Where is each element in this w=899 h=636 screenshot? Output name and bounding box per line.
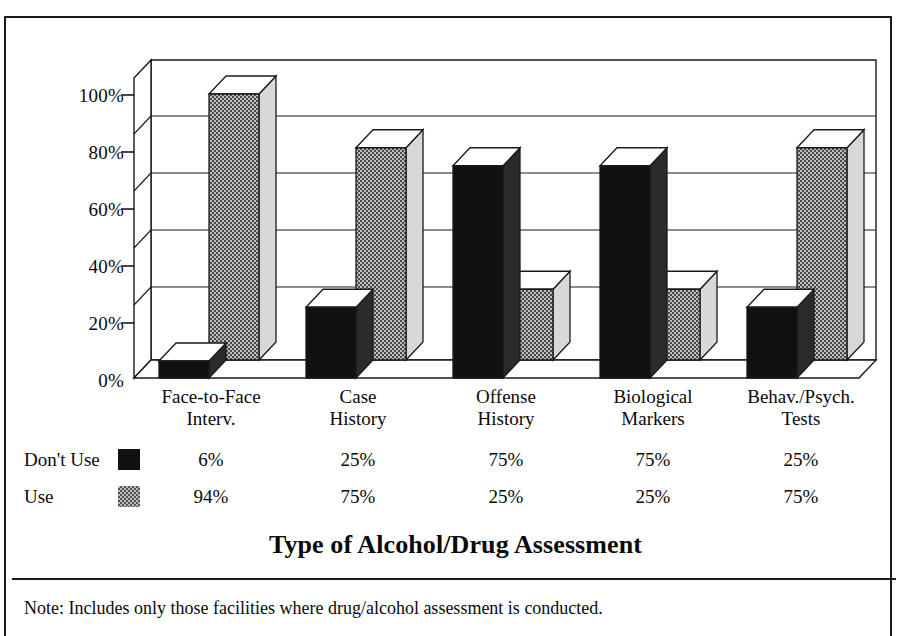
legend-value-dont-use-1: 25% (283, 448, 433, 472)
chart-title: Type of Alcohol/Drug Assessment (6, 530, 899, 560)
chart-plot-area: 100% 80% 60% 40% 20% 0% (6, 18, 899, 418)
legend-value-dont-use-4: 25% (726, 448, 876, 472)
bar-offense-history-dont-use (453, 148, 520, 378)
chart-legend-table: Don't Use 6% 25% 75% 75% 25% Use 94% 75%… (6, 446, 899, 518)
legend-value-dont-use-0: 6% (136, 448, 286, 472)
legend-row-use: Use 94% 75% 25% 25% 75% (6, 483, 899, 515)
legend-label-dont-use: Don't Use (24, 448, 100, 472)
chart-canvas (6, 18, 899, 418)
chart-note: Note: Includes only those facilities whe… (24, 596, 603, 620)
legend-value-use-4: 75% (726, 485, 876, 509)
bar-biological-markers-dont-use (600, 148, 667, 378)
bar-behav-psych-tests-dont-use (747, 289, 814, 378)
x-axis-label-0: Face-to-Face Interv. (136, 386, 286, 430)
bar-case-history-dont-use (306, 289, 373, 378)
legend-value-use-1: 75% (283, 485, 433, 509)
bar-face-to-face-interv--use (209, 76, 276, 360)
figure-frame: 100% 80% 60% 40% 20% 0% (4, 16, 892, 636)
legend-value-use-3: 25% (578, 485, 728, 509)
legend-value-dont-use-3: 75% (578, 448, 728, 472)
note-divider (12, 578, 896, 580)
x-axis-label-1: Case History (283, 386, 433, 430)
legend-value-use-0: 94% (136, 485, 286, 509)
legend-value-dont-use-2: 75% (431, 448, 581, 472)
x-axis-labels: Face-to-Face Interv. Case History Offens… (6, 386, 899, 436)
legend-label-use: Use (24, 485, 54, 509)
x-axis-label-3: Biological Markers (578, 386, 728, 430)
x-axis-label-2: Offense History (431, 386, 581, 430)
legend-row-dont-use: Don't Use 6% 25% 75% 75% 25% (6, 446, 899, 478)
legend-value-use-2: 25% (431, 485, 581, 509)
x-axis-label-4: Behav./Psych. Tests (726, 386, 876, 430)
